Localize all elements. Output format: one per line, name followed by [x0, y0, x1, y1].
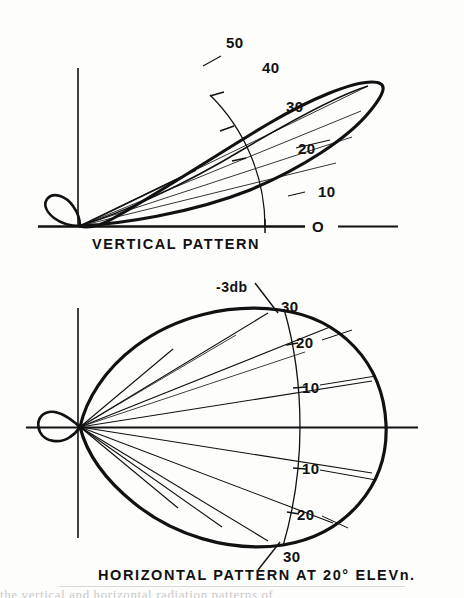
horizontal-pattern-panel: -3db 30 20 10 10 20 30 HORIZONTAL PATTER… — [26, 279, 418, 583]
vertical-pattern-caption: VERTICAL PATTERN — [92, 236, 260, 252]
vertical-label-30: 30 — [286, 98, 304, 115]
minus-3db-label: -3db — [216, 279, 248, 295]
vertical-arc-ticks — [210, 92, 265, 233]
horizontal-upper-label-30: 30 — [281, 298, 299, 315]
horizontal-back-lobe — [38, 412, 80, 441]
figure-canvas: O 10 20 30 40 50 VERTICAL PATTERN — [0, 0, 464, 598]
footer-cut-text: the vertical and horizontal radiation pa… — [0, 588, 464, 598]
horizontal-upper-label-10: 10 — [302, 379, 320, 396]
vertical-label-0: O — [312, 218, 324, 235]
vertical-radial-rays-heavy — [80, 170, 196, 226]
horizontal-lower-label-20: 20 — [297, 506, 315, 523]
vertical-label-20: 20 — [298, 140, 316, 157]
horizontal-tick-leaders — [320, 330, 376, 528]
horizontal-upper-label-20: 20 — [296, 334, 314, 351]
vertical-label-40: 40 — [262, 59, 280, 76]
vertical-back-lobe — [45, 195, 80, 226]
antenna-pattern-figure: O 10 20 30 40 50 VERTICAL PATTERN — [0, 0, 464, 598]
vertical-label-50: 50 — [226, 34, 244, 51]
vertical-label-10: 10 — [318, 183, 336, 200]
horizontal-lower-label-30: 30 — [283, 548, 301, 565]
vertical-main-lobe — [80, 82, 383, 227]
horizontal-radial-rays-upper — [80, 313, 372, 427]
page-rule — [60, 586, 405, 587]
horizontal-radial-rays-lower — [80, 427, 372, 541]
horizontal-pattern-caption: HORIZONTAL PATTERN AT 20° ELEVn. — [98, 567, 416, 583]
vertical-pattern-panel: O 10 20 30 40 50 VERTICAL PATTERN — [38, 34, 398, 252]
horizontal-lower-label-10: 10 — [302, 460, 320, 477]
